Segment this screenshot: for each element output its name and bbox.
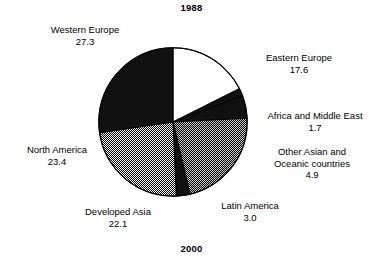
pie-svg bbox=[98, 47, 248, 197]
pie-slice bbox=[100, 122, 177, 196]
pie-chart-figure: 1988 Western Europe 27.3 Easte bbox=[0, 0, 383, 263]
slice-label-value: 27.3 bbox=[26, 36, 144, 48]
slice-label-value: 22.1 bbox=[66, 218, 170, 230]
slice-label-value: 1.7 bbox=[249, 122, 381, 134]
slice-label-name-line2: Oceanic countries bbox=[249, 158, 375, 170]
pie-slice bbox=[99, 48, 173, 133]
slice-label-name: Africa and Middle East bbox=[249, 110, 381, 122]
slice-label-value: 3.0 bbox=[196, 212, 304, 224]
chart-title-top: 1988 bbox=[0, 2, 383, 13]
slice-label-name: Latin America bbox=[196, 200, 304, 212]
slice-label-africa-and-middle-east: Africa and Middle East 1.7 bbox=[249, 110, 381, 133]
slice-label-developed-asia: Latin America 3.0 bbox=[196, 200, 304, 223]
slice-label-value: 4.9 bbox=[249, 169, 375, 181]
slice-label-other-asian-and-oceanic-countries: Other Asian and Oceanic countries 4.9 bbox=[249, 146, 375, 181]
slice-label-eastern-europe: Eastern Europe 17.6 bbox=[244, 52, 354, 75]
slice-label-north-america: North America 23.4 bbox=[6, 144, 108, 167]
pie-chart-graphic bbox=[98, 47, 248, 197]
slice-label-name-line1: Other Asian and bbox=[249, 146, 375, 158]
chart-title-bottom: 2000 bbox=[0, 243, 383, 254]
slice-label-latin-america: Developed Asia 22.1 bbox=[66, 206, 170, 229]
slice-label-value: 17.6 bbox=[244, 64, 354, 76]
pie-slices bbox=[99, 48, 247, 196]
slice-label-name: Developed Asia bbox=[66, 206, 170, 218]
slice-label-value: 23.4 bbox=[6, 156, 108, 168]
slice-label-name: Western Europe bbox=[26, 24, 144, 36]
slice-label-name: Eastern Europe bbox=[244, 52, 354, 64]
slice-label-name: North America bbox=[6, 144, 108, 156]
slice-label-western-europe: Western Europe 27.3 bbox=[26, 24, 144, 47]
